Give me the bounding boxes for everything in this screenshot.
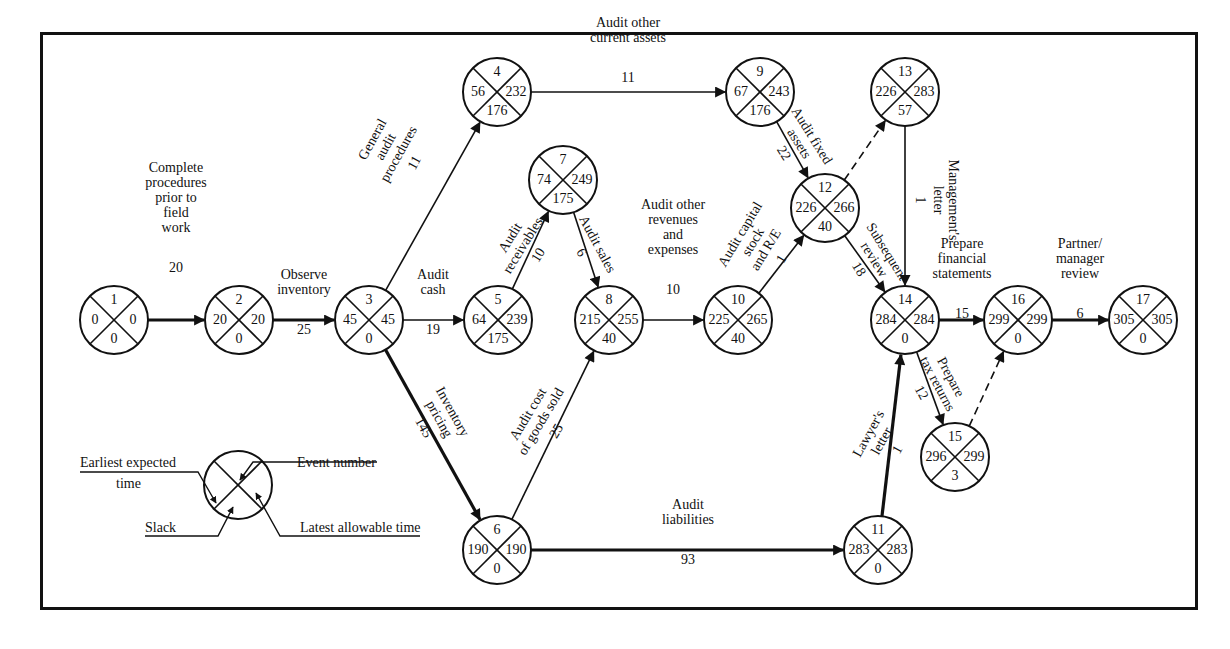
edge-label-2-to-3: Observeinventory25 — [277, 267, 331, 337]
edge-duration: 6 — [1077, 306, 1084, 321]
event-number: 11 — [871, 522, 884, 537]
event-node-14: 142842840 — [871, 286, 939, 354]
edge-label-text: Management's — [946, 159, 961, 240]
edge-duration: 1 — [913, 197, 928, 204]
event-number: 12 — [818, 180, 832, 195]
earliest-expected-time: 226 — [796, 200, 817, 215]
edge-label-text: Prepare — [941, 236, 984, 251]
event-number: 17 — [1136, 292, 1150, 307]
event-node-12: 1222626640 — [791, 174, 859, 242]
event-node-17: 173053050 — [1109, 286, 1177, 354]
earliest-expected-time: 45 — [343, 312, 357, 327]
edge-label-text: Audit other — [596, 15, 660, 30]
event-node-9: 967243176 — [726, 58, 794, 126]
edge-label-text: procedures — [145, 175, 206, 190]
event-node-1: 1000 — [80, 286, 148, 354]
edge-label-13-to-14: Management'sletter1 — [913, 159, 961, 240]
event-node-10: 1022526540 — [704, 286, 772, 354]
slack-value: 175 — [488, 331, 509, 346]
edge-label-text: Audit — [672, 497, 704, 512]
slack-value: 40 — [731, 331, 745, 346]
earliest-expected-time: 284 — [876, 312, 897, 327]
latest-allowable-time: 305 — [1152, 312, 1173, 327]
edge-duration: 1 — [773, 252, 789, 266]
edge-label-text: manager — [1056, 251, 1105, 266]
edge-label-text: Complete — [149, 160, 203, 175]
slack-value: 0 — [111, 331, 118, 346]
latest-allowable-time: 266 — [834, 200, 855, 215]
edge-label-text: Audit sales — [576, 213, 619, 275]
edge-label-text: expenses — [648, 242, 699, 257]
edge-label-text: prior to — [155, 190, 197, 205]
edge-duration: 93 — [681, 552, 695, 567]
earliest-expected-time: 225 — [709, 312, 730, 327]
slack-value: 57 — [898, 103, 912, 118]
event-number: 15 — [948, 429, 962, 444]
earliest-expected-time: 215 — [580, 312, 601, 327]
edge-label-3-to-5: Auditcash19 — [417, 267, 449, 337]
event-number: 4 — [494, 64, 501, 79]
earliest-expected-time: 74 — [537, 172, 551, 187]
edge-15-to-16 — [969, 352, 1003, 426]
edge-label-14-to-15: Preparetax returns12 — [901, 347, 971, 422]
pert-network-diagram: Completeproceduresprior tofieldwork20Obs… — [0, 0, 1230, 649]
edge-label-3-to-4: Generalauditprocedures11 — [351, 109, 436, 193]
slack-value: 40 — [818, 219, 832, 234]
latest-allowable-time: 284 — [914, 312, 935, 327]
edge-duration: 25 — [297, 322, 311, 337]
event-node-8: 821525540 — [575, 286, 643, 354]
legend-latest-label: Latest allowable time — [300, 520, 421, 535]
earliest-expected-time: 56 — [471, 84, 485, 99]
latest-allowable-time: 249 — [572, 172, 593, 187]
edge-label-14-to-16: Preparefinancialstatements15 — [932, 236, 991, 321]
edge-label-8-to-10: Audit otherrevenuesandexpenses10 — [641, 197, 705, 297]
edge-label-6-to-11: Auditliabilities93 — [662, 497, 714, 567]
event-number: 10 — [731, 292, 745, 307]
earliest-expected-time: 283 — [849, 542, 870, 557]
latest-allowable-time: 20 — [251, 312, 265, 327]
edge-duration: 6 — [573, 246, 590, 259]
edge-label-7-to-8: Audit sales6 — [560, 213, 619, 284]
slack-value: 0 — [494, 561, 501, 576]
event-node-6: 61901900 — [463, 516, 531, 584]
legend: Earliest expected time Event number Slac… — [80, 451, 421, 536]
slack-value: 3 — [952, 468, 959, 483]
slack-value: 0 — [1015, 331, 1022, 346]
latest-allowable-time: 190 — [506, 542, 527, 557]
edge-label-6-to-8: Audit costof goods sold25 — [502, 378, 582, 467]
latest-allowable-time: 45 — [381, 312, 395, 327]
edge-label-text: letter — [931, 186, 946, 215]
edge-label-text: financial — [938, 251, 987, 266]
edge-duration: 1 — [889, 443, 906, 456]
event-number: 5 — [495, 292, 502, 307]
earliest-expected-time: 226 — [876, 84, 897, 99]
earliest-expected-time: 296 — [926, 449, 947, 464]
edge-duration: 20 — [169, 260, 183, 275]
edge-label-text: review — [1061, 266, 1100, 281]
edge-label-text: current assets — [590, 30, 666, 45]
slack-value: 0 — [875, 561, 882, 576]
latest-allowable-time: 239 — [507, 312, 528, 327]
event-number: 13 — [898, 64, 912, 79]
event-number: 16 — [1011, 292, 1025, 307]
edge-duration: 15 — [955, 306, 969, 321]
edge-label-text: cash — [421, 282, 446, 297]
latest-allowable-time: 243 — [769, 84, 790, 99]
earliest-expected-time: 64 — [472, 312, 486, 327]
edge-label-text: Observe — [281, 267, 328, 282]
edge-duration: 11 — [621, 70, 634, 85]
edge-12-to-13 — [844, 121, 885, 180]
edge-duration: 11 — [404, 153, 424, 172]
edge-duration: 19 — [426, 322, 440, 337]
edge-label-text: statements — [932, 266, 991, 281]
latest-allowable-time: 265 — [747, 312, 768, 327]
earliest-expected-time: 299 — [989, 312, 1010, 327]
edge-label-text: field — [163, 205, 189, 220]
edge-label-text: and — [663, 227, 683, 242]
edge-label-text: revenues — [648, 212, 698, 227]
latest-allowable-time: 0 — [130, 312, 137, 327]
event-number: 8 — [606, 292, 613, 307]
legend-earliest-label-2: time — [116, 476, 141, 491]
earliest-expected-time: 67 — [734, 84, 748, 99]
event-number: 3 — [366, 292, 373, 307]
